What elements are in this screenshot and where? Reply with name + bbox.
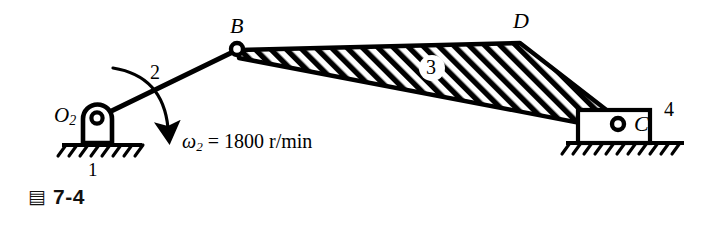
label-joint-d: D	[513, 10, 529, 32]
label-joint-b: B	[230, 15, 243, 37]
joint-c-pin	[612, 118, 624, 130]
label-link-1: 1	[88, 160, 98, 179]
label-angular-velocity: ω2 = 1800 r/min	[182, 131, 312, 154]
joint-b-pin	[231, 43, 243, 55]
label-link-4: 4	[664, 99, 674, 119]
linkage-diagram	[0, 0, 711, 235]
ground-support-left	[58, 145, 143, 156]
pivot-o2-pin	[91, 112, 102, 123]
figure-caption: ▤ 7-4	[28, 186, 85, 207]
link-2-crank	[97, 50, 237, 118]
label-link-2: 2	[150, 62, 160, 82]
label-joint-c: C	[634, 113, 649, 135]
figure-root: O2 B D C 1 2 3 4 ω2 = 1800 r/min ▤ 7-4	[0, 0, 711, 235]
fixed-pivot-o2	[83, 105, 112, 144]
figure-caption-glyph: ▤	[28, 187, 46, 206]
figure-caption-number: 7-4	[53, 186, 85, 207]
label-link-3: 3	[426, 57, 436, 77]
ground-support-right	[562, 143, 684, 154]
label-pivot-o2: O2	[54, 105, 76, 128]
